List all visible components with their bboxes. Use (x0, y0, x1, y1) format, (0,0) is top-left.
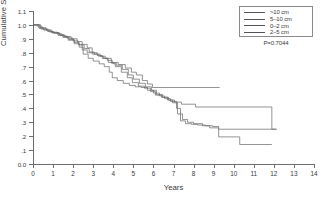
x-tick-label: 13 (290, 170, 297, 177)
legend-line-icon (244, 19, 265, 20)
x-axis-title: Years (33, 183, 314, 192)
x-tick-mark (234, 164, 235, 168)
x-tick-label: 0 (31, 170, 35, 177)
y-tick-label: .7 (0, 63, 26, 70)
legend-line-icon (244, 12, 265, 13)
x-tick-mark (153, 164, 154, 168)
legend-line-icon (244, 32, 265, 33)
legend-item-label: 0–2 cm (270, 23, 289, 29)
x-tick-mark (133, 164, 134, 168)
x-tick-mark (93, 164, 94, 168)
y-tick-label: .5 (0, 91, 26, 98)
x-tick-label: 7 (172, 170, 176, 177)
legend-item: 0–2 cm (244, 22, 312, 29)
x-tick-label: 9 (212, 170, 216, 177)
x-tick-label: 11 (250, 170, 257, 177)
x-tick-label: 2 (71, 170, 75, 177)
legend-item-label: 2–5 cm (270, 29, 289, 35)
x-tick-label: 10 (230, 170, 237, 177)
y-tick-label: .3 (0, 119, 26, 126)
x-tick-label: 4 (112, 170, 116, 177)
y-tick-label: .6 (0, 77, 26, 84)
x-tick-label: 5 (132, 170, 136, 177)
x-tick-label: 3 (91, 170, 95, 177)
x-tick-label: 8 (192, 170, 196, 177)
x-tick-mark (73, 164, 74, 168)
y-tick-label: .4 (0, 105, 26, 112)
legend-item-label: >10 cm (270, 9, 289, 15)
x-tick-label: 14 (310, 170, 317, 177)
y-tick-label: 0.0 (0, 161, 26, 168)
x-tick-mark (113, 164, 114, 168)
legend-item: >10 cm (244, 9, 312, 16)
x-tick-mark (274, 164, 275, 168)
legend: >10 cm5–10 cm0–2 cm2–5 cm (239, 6, 313, 37)
y-axis-title: Cumulative Survival (0, 32, 8, 46)
p-value-label: P=0.7044 (239, 40, 313, 46)
legend-item-label: 5–10 cm (270, 16, 292, 22)
x-tick-mark (214, 164, 215, 168)
survival-chart: 0.0.1.2.3.4.5.6.7.8.91.01.1 012345678910… (0, 0, 327, 201)
legend-line-icon (244, 25, 265, 26)
x-tick-mark (53, 164, 54, 168)
y-tick-label: .2 (0, 133, 26, 140)
x-tick-mark (174, 164, 175, 168)
x-tick-mark (314, 164, 315, 168)
x-tick-label: 12 (270, 170, 277, 177)
x-tick-mark (294, 164, 295, 168)
x-tick-label: 6 (152, 170, 156, 177)
y-tick-label: .8 (0, 49, 26, 56)
x-tick-label: 1 (51, 170, 55, 177)
x-tick-mark (33, 164, 34, 168)
legend-item: 2–5 cm (244, 29, 312, 36)
legend-item: 5–10 cm (244, 16, 312, 23)
x-tick-mark (254, 164, 255, 168)
x-tick-mark (194, 164, 195, 168)
y-tick-label: .1 (0, 147, 26, 154)
